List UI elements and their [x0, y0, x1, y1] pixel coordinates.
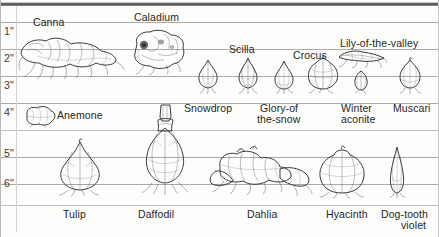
- caladium-tuber-illustration: [128, 28, 188, 76]
- guide-line-bottom: [1, 205, 439, 206]
- dahlia-tuber-cluster-illustration: [206, 145, 316, 199]
- dog-tooth-violet-corm-illustration: [384, 146, 410, 198]
- canna-rhizome-illustration: [17, 32, 125, 80]
- label-snowdrop: Snowdrop: [184, 103, 232, 115]
- label-hyacinth: Hyacinth: [326, 209, 368, 221]
- label-scilla: Scilla: [229, 44, 255, 56]
- ruler-tick-3in: 3": [4, 80, 14, 91]
- label-crocus: Crocus: [293, 50, 327, 62]
- ruler-tick-4in: 4": [4, 107, 14, 118]
- label-daffodil: Daffodil: [138, 209, 174, 221]
- daffodil-bulb-illustration: [139, 103, 191, 195]
- label-anemone: Anemone: [57, 110, 103, 122]
- scilla-bulb-illustration: [235, 56, 261, 94]
- label-tulip: Tulip: [63, 209, 86, 221]
- label-canna: Canna: [33, 17, 64, 29]
- label-caladium: Caladium: [134, 12, 179, 24]
- label-lily-of-the-valley: Lily-of-the-valley: [340, 38, 418, 50]
- ruler-tick-6in: 6": [4, 178, 14, 189]
- label-dog-tooth-violet-line2: violet: [401, 220, 426, 232]
- ruler-tick-2in: 2": [4, 53, 14, 64]
- bulb-size-scale-chart: 1" 2" 3" 4" 5" 6": [0, 0, 439, 237]
- guide-line-1in: [1, 22, 439, 23]
- lily-of-the-valley-pips-illustration: [337, 47, 387, 69]
- winter-aconite-tuber-illustration: [351, 70, 371, 94]
- hyacinth-bulb-illustration: [316, 146, 368, 198]
- muscari-bulb-illustration: [395, 58, 425, 94]
- tulip-bulb-illustration: [56, 140, 104, 196]
- label-glory-of-the-snow-line2: the-snow: [257, 114, 300, 126]
- label-dahlia: Dahlia: [247, 209, 277, 221]
- ruler-tick-5in: 5": [4, 148, 14, 159]
- snowdrop-bulb-illustration: [195, 58, 221, 94]
- top-border-rule: [1, 3, 439, 6]
- label-muscari: Muscari: [393, 103, 430, 115]
- guide-line-mid: [1, 130, 439, 131]
- glory-of-the-snow-bulb-illustration: [272, 59, 297, 94]
- ruler-tick-1in: 1": [4, 26, 14, 37]
- label-winter-aconite-line2: aconite: [341, 114, 376, 126]
- anemone-tuber-illustration: [23, 104, 57, 128]
